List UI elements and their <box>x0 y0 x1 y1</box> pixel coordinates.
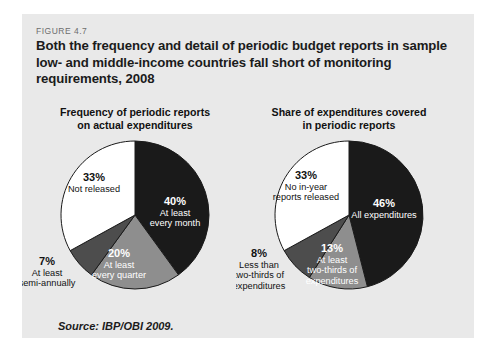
pie-slice-name-line: At least <box>104 260 135 270</box>
chart-title-line-1: Frequency of periodic reports <box>60 106 210 118</box>
pie-slice-percent: 46% <box>373 197 395 209</box>
chart-title-line-2: on actual expenditures <box>77 119 192 131</box>
pie-chart-share-title: Share of expenditures covered in periodi… <box>249 106 449 131</box>
figure-title: Both the frequency and detail of periodi… <box>36 38 454 88</box>
pie-slice-label: 8%Less thantwo-thirds ofexpenditures <box>236 247 286 291</box>
pie-slice-name-line: reports released <box>273 192 339 202</box>
pie-slice-name-line: Less than <box>239 260 279 270</box>
pie-slice-percent: 33% <box>295 169 317 181</box>
pie-slice-name-line: two-thirds of <box>307 265 357 275</box>
pie-slice-percent: 8% <box>251 247 267 259</box>
pie-slice-label: 7%At leastsemi-annually <box>22 255 76 288</box>
chart-title-line-2: in periodic reports <box>302 119 395 131</box>
pie-chart-frequency-title: Frequency of periodic reports on actual … <box>35 106 235 131</box>
pie-slice-name-line: semi-annually <box>22 278 76 288</box>
pie-slice-name-line: expenditures <box>306 276 359 286</box>
pie-slice-name-line: expenditures <box>236 281 286 291</box>
pie-slice-name-line: At least <box>317 255 348 265</box>
source-note: Source: IBP/OBI 2009. <box>58 320 174 332</box>
figure-container: FIGURE 4.7 Both the frequency and detail… <box>22 14 474 338</box>
pie-frequency-canvas: 40%At leastevery month20%At leastevery q… <box>22 137 248 305</box>
pie-slice-name-line: No in-year <box>285 182 327 192</box>
pie-share-svg: 46%All expenditures13%At leasttwo-thirds… <box>236 137 462 305</box>
pie-slice-percent: 7% <box>39 255 55 267</box>
pie-slice-percent: 40% <box>164 195 186 207</box>
pie-slice-name-line: At least <box>160 208 191 218</box>
chart-title-line-1: Share of expenditures covered <box>272 106 427 118</box>
pie-share-canvas: 46%All expenditures13%At leasttwo-thirds… <box>236 137 462 305</box>
pie-slice-name-line: Not released <box>68 184 120 194</box>
pie-slice-percent: 33% <box>83 171 105 183</box>
pie-slice-name-line: two-thirds of <box>236 270 284 280</box>
pie-slice-name-line: All expenditures <box>351 210 417 220</box>
pie-chart-frequency: Frequency of periodic reports on actual … <box>22 106 248 306</box>
pie-chart-share: Share of expenditures covered in periodi… <box>236 106 462 306</box>
pie-slice-percent: 13% <box>321 242 343 254</box>
pie-slice-name-line: every quarter <box>92 270 146 280</box>
pie-frequency-svg: 40%At leastevery month20%At leastevery q… <box>22 137 248 305</box>
pie-slice-name-line: every month <box>150 218 201 228</box>
figure-number-label: FIGURE 4.7 <box>36 26 87 36</box>
pie-slice-percent: 20% <box>108 247 130 259</box>
pie-slice-name-line: At least <box>32 268 63 278</box>
